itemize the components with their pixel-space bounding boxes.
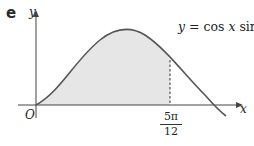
x-axis-label: x bbox=[240, 102, 247, 116]
origin-label: O bbox=[25, 108, 35, 122]
part-label: e bbox=[6, 4, 16, 22]
fraction-denominator: 12 bbox=[160, 126, 182, 138]
eq-sin: sin bbox=[235, 19, 254, 34]
eq-lhs: y bbox=[178, 19, 185, 34]
fraction-numerator: 5π bbox=[160, 111, 182, 123]
eq-cos: = cos bbox=[185, 19, 228, 34]
marker-fraction: 5π 12 bbox=[160, 111, 182, 138]
y-axis-label: y bbox=[29, 5, 36, 19]
shaded-region bbox=[36, 29, 170, 105]
equation-label: y = cos x sin2x bbox=[178, 19, 254, 34]
